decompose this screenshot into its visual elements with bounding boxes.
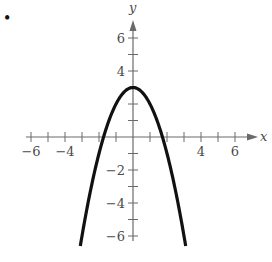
y-tick-label: −2 [106,163,125,178]
axes [26,20,258,241]
x-axis-label: x [260,129,268,144]
x-tick-label: 4 [197,144,205,159]
y-tick-label: 4 [117,64,125,79]
y-axis-arrow-icon [130,20,137,31]
y-tick-label: −6 [106,229,125,244]
parabola-chart: • −6−44664−2−4−6 x y [0,0,272,262]
x-tick-label: −6 [21,144,40,159]
problem-bullet: • [4,8,10,28]
x-tick-label: −4 [55,144,74,159]
y-tick-label: 6 [117,31,125,46]
y-axis-label: y [128,0,137,15]
y-tick-label: −4 [106,196,125,211]
x-axis-arrow-icon [247,134,258,141]
x-tick-label: 6 [231,144,239,159]
